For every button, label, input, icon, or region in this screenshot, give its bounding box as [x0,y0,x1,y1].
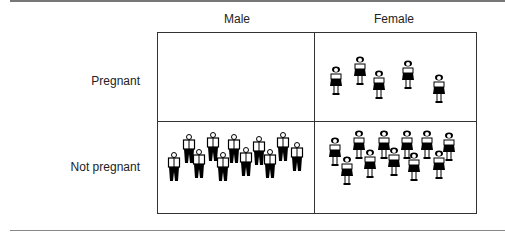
bottom-rule [10,230,505,231]
man-icon [191,149,207,183]
woman-icon [362,149,378,183]
woman-icon [400,60,416,94]
woman-icon [406,152,422,186]
cell-male-not-pregnant [158,122,314,214]
woman-icon [352,56,368,90]
woman-icon [431,150,447,184]
woman-icon [328,66,344,100]
row-header-pregnant: Pregnant [0,74,140,88]
man-icon [215,152,231,186]
woman-icon [431,74,447,108]
man-icon [289,142,305,176]
row-header-not-pregnant: Not pregnant [0,160,140,174]
contingency-grid [157,32,477,214]
man-icon [238,147,254,181]
man-icon [262,149,278,183]
woman-icon [371,70,387,104]
woman-icon [386,147,402,181]
column-header-male: Male [157,12,317,26]
cell-male-pregnant [158,33,314,121]
man-icon [166,152,182,186]
column-header-female: Female [314,12,474,26]
top-rule [10,0,505,2]
cell-female-pregnant [315,33,477,121]
woman-icon [339,156,355,190]
cell-female-not-pregnant [315,122,477,214]
